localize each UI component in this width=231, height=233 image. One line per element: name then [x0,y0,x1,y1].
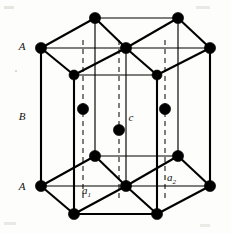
atom-b-left [35,180,46,191]
label-layer-middle: B [19,110,26,122]
label-axis-c: c [129,111,134,123]
paper-texture [4,6,210,227]
atom-b-front-right [151,208,162,219]
atom-m-center [113,124,124,135]
atom-b-right [204,180,215,191]
edge-b-right-frontright [157,186,210,214]
edge-t-center-frontleft [74,48,126,75]
edge-b-backleft-center [95,156,126,186]
edge-t-frontleft-left [41,48,74,75]
atom-t-right [204,42,215,53]
label-axis-a2-subscript: 2 [173,178,177,186]
atom-t-back-left [89,12,100,23]
atom-t-back-right [172,12,183,23]
edge-b-frontleft-left [41,186,74,214]
edge-b-frontright-center [126,186,157,214]
atom-t-left [35,42,46,53]
edge-t-backright-right [178,18,210,48]
atom-b-front-left [68,208,79,219]
label-axis-a2: a2 [167,171,177,186]
atom-t-center [120,42,131,53]
edge-b-backright-right [178,156,210,186]
label-layer-bottom: A [18,180,26,192]
edge-t-frontright-center [126,48,157,75]
label-axis-a1-subscript: 1 [88,191,92,199]
atom-m-left [77,103,88,114]
atom-t-front-left [69,70,79,80]
hcp-lattice-svg: A B A c a1 a2 [0,0,231,233]
atom-b-back-left [89,150,100,161]
atom-t-front-right [152,70,162,80]
edge-t-backleft-center [95,18,126,48]
edge-b-left-backleft [41,156,95,186]
hcp-figure: A B A c a1 a2 [0,0,231,233]
atom-b-center [120,180,131,191]
label-layer-top: A [18,40,26,52]
atom-m-right [159,103,170,114]
edge-t-center-backright [126,18,178,48]
atom-b-back-right [172,150,183,161]
edge-t-left-backleft [41,18,95,48]
